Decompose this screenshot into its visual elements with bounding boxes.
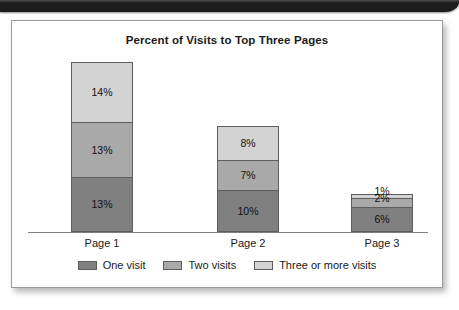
bar-segment[interactable]: 8% [217, 126, 279, 160]
bar-segment[interactable]: 2% [351, 198, 413, 206]
chart-legend: One visitTwo visitsThree or more visits [12, 259, 442, 271]
legend-entry[interactable]: One visit [78, 259, 146, 271]
bar-segment-value-label: 14% [91, 87, 112, 98]
bar-segment-value-label: 6% [374, 214, 389, 225]
legend-label: Two visits [188, 259, 236, 271]
bar-segment-value-label: 10% [237, 206, 258, 217]
legend-swatch-icon [78, 261, 97, 270]
bar-segment[interactable]: 10% [217, 190, 279, 232]
chart-card: Percent of Visits to Top Three Pages 14%… [11, 20, 443, 288]
legend-label: Three or more visits [279, 259, 376, 271]
x-tick-label-1: Page 1 [62, 237, 142, 249]
legend-entry[interactable]: Three or more visits [254, 259, 376, 271]
bar-segment-value-label: 8% [240, 138, 255, 149]
scanned-page-edge [0, 0, 459, 12]
bar-segment[interactable]: 13% [71, 122, 133, 177]
x-tick-label-3: Page 3 [342, 237, 422, 249]
bar-column[interactable]: 14%13%13% [71, 62, 133, 232]
legend-swatch-icon [163, 261, 182, 270]
bar-segment[interactable]: 6% [351, 207, 413, 232]
bar-segment-value-label: 2% [374, 193, 389, 204]
bar-segment[interactable]: 7% [217, 160, 279, 190]
bar-segment-value-label: 13% [91, 145, 112, 156]
bar-segment[interactable]: 14% [71, 62, 133, 121]
bar-segment-value-label: 7% [240, 170, 255, 181]
bar-column[interactable]: 1%2%6% [351, 194, 413, 232]
bar-column[interactable]: 8%7%10% [217, 126, 279, 232]
bar-segment[interactable]: 13% [71, 177, 133, 232]
bars-layer: 14%13%13%8%7%10%1%2%6% [24, 55, 432, 233]
chart-title: Percent of Visits to Top Three Pages [12, 34, 442, 46]
bar-segment-value-label: 13% [91, 199, 112, 210]
plot-area: 14%13%13%8%7%10%1%2%6% [24, 55, 432, 233]
x-tick-label-2: Page 2 [208, 237, 288, 249]
legend-entry[interactable]: Two visits [163, 259, 236, 271]
legend-label: One visit [103, 259, 146, 271]
x-axis-tick-labels: Page 1Page 2Page 3 [24, 237, 432, 255]
legend-swatch-icon [254, 261, 273, 270]
